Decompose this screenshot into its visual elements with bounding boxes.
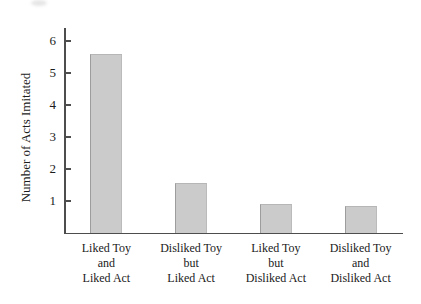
bar-1 [90, 54, 122, 233]
y-tick-label: 2 [28, 161, 56, 177]
category-label-line: and [313, 256, 409, 271]
category-label-line: Disliked Act [228, 271, 324, 286]
scan-smudge-artifact [31, 0, 47, 6]
category-label-line: but [228, 256, 324, 271]
y-tick [64, 104, 71, 106]
y-tick-label: 3 [28, 129, 56, 145]
y-tick-label: 4 [28, 97, 56, 113]
y-tick-label: 5 [28, 65, 56, 81]
category-label-line: Disliked Toy [313, 241, 409, 256]
category-label-1: Liked ToyandLiked Act [58, 241, 154, 286]
category-label-line: but [143, 256, 239, 271]
y-axis-line [64, 28, 66, 234]
bar-chart-figure: Number of Acts Imitated 123456Liked Toya… [0, 0, 421, 304]
y-tick [64, 40, 71, 42]
y-tick [64, 200, 71, 202]
category-label-line: Disliked Act [313, 271, 409, 286]
category-label-line: Liked Toy [228, 241, 324, 256]
y-tick-label: 1 [28, 193, 56, 209]
category-label-4: Disliked ToyandDisliked Act [313, 241, 409, 286]
bar-3 [260, 204, 292, 233]
category-label-2: Disliked ToybutLiked Act [143, 241, 239, 286]
category-label-line: Liked Act [58, 271, 154, 286]
category-label-line: and [58, 256, 154, 271]
y-tick [64, 72, 71, 74]
y-tick-label: 6 [28, 33, 56, 49]
category-label-3: Liked ToybutDisliked Act [228, 241, 324, 286]
category-label-line: Liked Act [143, 271, 239, 286]
category-label-line: Liked Toy [58, 241, 154, 256]
bar-2 [175, 183, 207, 233]
bar-4 [345, 206, 377, 233]
y-tick [64, 168, 71, 170]
category-label-line: Disliked Toy [143, 241, 239, 256]
y-tick [64, 136, 71, 138]
